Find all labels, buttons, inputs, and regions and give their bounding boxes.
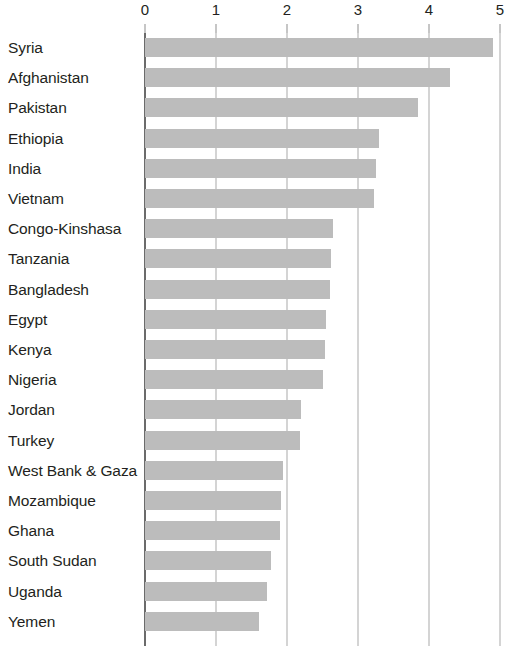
bar — [145, 551, 271, 570]
bar — [145, 129, 379, 148]
category-label: Bangladesh — [8, 275, 89, 305]
category-label: Mozambique — [8, 486, 96, 516]
plot-area: SyriaAfghanistanPakistanEthiopiaIndiaVie… — [0, 0, 508, 651]
bar-chart: 012345 SyriaAfghanistanPakistanEthiopiaI… — [0, 0, 508, 651]
chart-row: Afghanistan — [0, 63, 508, 93]
bar — [145, 400, 301, 419]
bar — [145, 38, 493, 57]
category-label: Tanzania — [8, 244, 69, 274]
chart-row: Ghana — [0, 516, 508, 546]
chart-row: Kenya — [0, 335, 508, 365]
category-label: Uganda — [8, 577, 62, 607]
bar — [145, 521, 280, 540]
category-label: Egypt — [8, 305, 47, 335]
chart-row: Bangladesh — [0, 275, 508, 305]
bar — [145, 370, 323, 389]
chart-row: Turkey — [0, 426, 508, 456]
bar — [145, 219, 333, 238]
category-label: Ghana — [8, 516, 54, 546]
chart-row: Uganda — [0, 577, 508, 607]
category-label: Afghanistan — [8, 63, 89, 93]
chart-row: Egypt — [0, 305, 508, 335]
bar — [145, 98, 418, 117]
bar — [145, 340, 325, 359]
bar — [145, 310, 326, 329]
chart-row: India — [0, 154, 508, 184]
category-label: Turkey — [8, 426, 54, 456]
category-label: India — [8, 154, 41, 184]
bar — [145, 68, 450, 87]
category-label: West Bank & Gaza — [8, 456, 137, 486]
chart-row: Congo-Kinshasa — [0, 214, 508, 244]
chart-row: Jordan — [0, 395, 508, 425]
chart-row: Ethiopia — [0, 124, 508, 154]
chart-row: Syria — [0, 33, 508, 63]
chart-row: Yemen — [0, 607, 508, 637]
bar — [145, 159, 376, 178]
category-label: Congo-Kinshasa — [8, 214, 121, 244]
bar — [145, 612, 259, 631]
bar — [145, 582, 267, 601]
category-label: Ethiopia — [8, 124, 63, 154]
bar — [145, 280, 330, 299]
chart-row: Mozambique — [0, 486, 508, 516]
category-label: South Sudan — [8, 546, 97, 576]
bar — [145, 249, 331, 268]
category-label: Syria — [8, 33, 43, 63]
bar — [145, 189, 374, 208]
category-label: Kenya — [8, 335, 51, 365]
category-label: Jordan — [8, 395, 55, 425]
chart-row: Tanzania — [0, 244, 508, 274]
category-label: Nigeria — [8, 365, 56, 395]
category-label: Pakistan — [8, 93, 67, 123]
category-label: Vietnam — [8, 184, 64, 214]
chart-row: Nigeria — [0, 365, 508, 395]
chart-row: Vietnam — [0, 184, 508, 214]
bar — [145, 431, 300, 450]
chart-row: West Bank & Gaza — [0, 456, 508, 486]
bar — [145, 491, 281, 510]
bar — [145, 461, 283, 480]
category-label: Yemen — [8, 607, 55, 637]
chart-row: South Sudan — [0, 546, 508, 576]
chart-row: Pakistan — [0, 93, 508, 123]
